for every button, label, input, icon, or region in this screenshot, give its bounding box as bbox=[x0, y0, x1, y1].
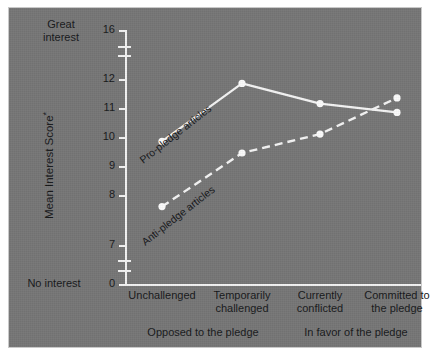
data-point bbox=[316, 100, 323, 107]
x-category-1-line2: challenged bbox=[195, 302, 289, 315]
data-point bbox=[393, 109, 400, 116]
x-category-3-line2: the pledge bbox=[349, 302, 436, 315]
data-point bbox=[393, 94, 400, 101]
figure-container: 16 12 11 10 9 8 7 0 Great interest No in… bbox=[0, 0, 436, 360]
x-category-label-1: Temporarily challenged bbox=[195, 289, 289, 315]
x-category-3-line1: Committed to bbox=[349, 289, 436, 302]
data-point bbox=[158, 203, 165, 210]
x-category-1-line1: Temporarily bbox=[195, 289, 289, 302]
data-point bbox=[238, 149, 245, 156]
x-group-label-left: Opposed to the pledge bbox=[113, 326, 293, 338]
data-point bbox=[316, 131, 323, 138]
x-category-label-3: Committed to the pledge bbox=[349, 289, 436, 315]
chart-plate: 16 12 11 10 9 8 7 0 Great interest No in… bbox=[8, 7, 422, 348]
x-group-label-right: In favor of the pledge bbox=[271, 326, 436, 338]
data-point bbox=[238, 80, 245, 87]
